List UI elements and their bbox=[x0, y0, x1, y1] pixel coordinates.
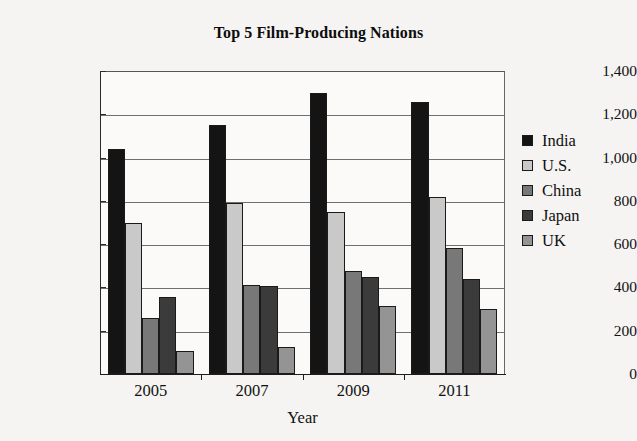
x-axis-title: Year bbox=[100, 408, 505, 428]
chart-container: Top 5 Film-Producing Nations Number of F… bbox=[0, 0, 637, 441]
bar-u-s-2005[interactable] bbox=[125, 223, 142, 375]
bar-japan-2007[interactable] bbox=[260, 286, 277, 374]
legend-item-china[interactable]: China bbox=[522, 178, 581, 203]
bar-india-2011[interactable] bbox=[411, 102, 428, 374]
legend-swatch-icon bbox=[522, 235, 533, 246]
bar-uk-2009[interactable] bbox=[379, 306, 396, 374]
y-tick-label: 1,400 bbox=[545, 63, 637, 79]
x-tick-mark bbox=[201, 374, 202, 380]
legend-swatch-icon bbox=[522, 160, 533, 171]
bar-u-s-2009[interactable] bbox=[327, 212, 344, 374]
chart-title: Top 5 Film-Producing Nations bbox=[0, 24, 637, 42]
legend-item-japan[interactable]: Japan bbox=[522, 203, 581, 228]
legend-label: China bbox=[542, 181, 581, 201]
bar-group bbox=[108, 71, 194, 374]
legend-item-u-s[interactable]: U.S. bbox=[522, 153, 581, 178]
x-tick-label: 2007 bbox=[202, 381, 302, 401]
bar-japan-2011[interactable] bbox=[463, 279, 480, 374]
bar-india-2005[interactable] bbox=[108, 149, 125, 374]
legend-label: UK bbox=[542, 231, 566, 251]
legend: IndiaU.S.ChinaJapanUK bbox=[522, 128, 581, 253]
y-tick-label: 200 bbox=[545, 323, 637, 339]
x-tick-label: 2005 bbox=[101, 381, 201, 401]
bar-group bbox=[209, 71, 295, 374]
bar-uk-2007[interactable] bbox=[278, 347, 295, 374]
bar-japan-2009[interactable] bbox=[362, 277, 379, 374]
legend-label: U.S. bbox=[542, 156, 571, 176]
x-tick-mark bbox=[404, 374, 405, 380]
bar-china-2007[interactable] bbox=[243, 285, 260, 374]
bar-group bbox=[310, 71, 396, 374]
bar-uk-2005[interactable] bbox=[176, 351, 193, 374]
bar-uk-2011[interactable] bbox=[480, 309, 497, 374]
x-tick-mark bbox=[303, 374, 304, 380]
bar-india-2009[interactable] bbox=[310, 93, 327, 374]
bar-china-2011[interactable] bbox=[446, 248, 463, 374]
bar-india-2007[interactable] bbox=[209, 125, 226, 374]
y-tick-label: 1,200 bbox=[545, 107, 637, 123]
y-tick-label: 0 bbox=[545, 366, 637, 382]
bar-u-s-2011[interactable] bbox=[429, 197, 446, 374]
bar-china-2005[interactable] bbox=[142, 318, 159, 374]
bar-china-2009[interactable] bbox=[345, 271, 362, 374]
bar-group bbox=[411, 71, 497, 374]
bars-layer bbox=[100, 71, 505, 374]
legend-item-india[interactable]: India bbox=[522, 128, 581, 153]
x-tick-label: 2011 bbox=[404, 381, 504, 401]
legend-label: India bbox=[542, 131, 576, 151]
legend-item-uk[interactable]: UK bbox=[522, 228, 581, 253]
legend-label: Japan bbox=[542, 206, 580, 226]
y-tick-label: 400 bbox=[545, 280, 637, 296]
legend-swatch-icon bbox=[522, 135, 533, 146]
x-tick-label: 2009 bbox=[303, 381, 403, 401]
bar-u-s-2007[interactable] bbox=[226, 203, 243, 374]
legend-swatch-icon bbox=[522, 210, 533, 221]
bar-japan-2005[interactable] bbox=[159, 297, 176, 374]
legend-swatch-icon bbox=[522, 185, 533, 196]
